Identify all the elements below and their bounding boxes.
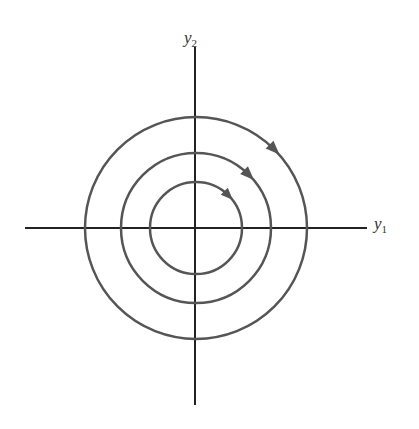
y2-axis-label: y2 xyxy=(184,28,197,49)
phase-plane xyxy=(0,0,419,429)
y1-axis-label: y1 xyxy=(374,214,387,235)
